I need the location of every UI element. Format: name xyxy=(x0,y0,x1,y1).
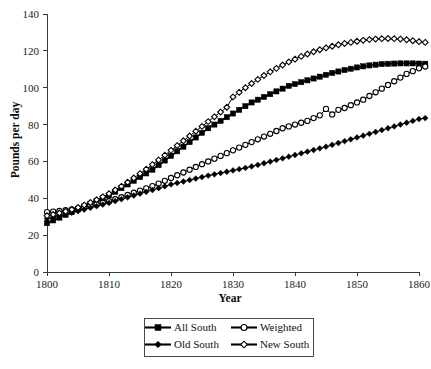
data-point xyxy=(261,134,266,139)
data-point xyxy=(404,120,410,126)
data-point xyxy=(336,107,341,112)
x-tick-label: 1850 xyxy=(346,278,369,290)
data-point xyxy=(348,103,353,108)
data-point xyxy=(206,159,211,164)
data-point xyxy=(336,69,341,74)
series-group xyxy=(44,36,428,226)
data-point xyxy=(354,100,359,105)
data-point xyxy=(367,93,372,98)
data-point xyxy=(311,76,316,81)
data-point xyxy=(404,37,410,43)
legend-label: Old South xyxy=(174,338,219,350)
data-point xyxy=(385,61,390,66)
x-tick-label: 1800 xyxy=(36,278,59,290)
data-point xyxy=(237,145,242,150)
data-point xyxy=(323,72,328,77)
data-point xyxy=(348,66,353,71)
data-point xyxy=(311,147,317,153)
legend-marker-open-circle xyxy=(241,325,247,331)
data-point xyxy=(230,168,236,174)
data-point xyxy=(336,140,342,146)
data-point xyxy=(255,162,261,168)
data-point xyxy=(367,131,373,137)
data-point xyxy=(181,144,186,149)
data-point xyxy=(323,144,329,150)
legend-label: All South xyxy=(174,321,217,333)
data-point xyxy=(317,47,323,53)
data-point xyxy=(255,77,261,83)
data-point xyxy=(299,80,304,85)
data-point xyxy=(423,64,428,69)
data-point xyxy=(336,42,342,48)
data-point xyxy=(398,61,403,66)
data-point xyxy=(255,137,260,142)
data-point xyxy=(385,36,391,42)
data-point xyxy=(360,37,366,43)
data-point xyxy=(205,173,211,179)
y-tick-label: 40 xyxy=(28,192,40,204)
data-point xyxy=(237,107,242,112)
data-point xyxy=(398,75,403,80)
data-point xyxy=(199,162,204,167)
data-point xyxy=(280,155,286,161)
data-point xyxy=(175,173,180,178)
data-point xyxy=(305,149,311,155)
data-point xyxy=(373,129,379,135)
data-point xyxy=(168,153,173,158)
legend-marker-filled-square xyxy=(155,325,161,331)
data-point xyxy=(292,56,298,62)
data-point xyxy=(218,170,224,176)
data-point xyxy=(385,82,390,87)
data-point xyxy=(249,139,254,144)
data-point xyxy=(286,124,291,129)
y-tick-label: 60 xyxy=(28,155,40,167)
data-point xyxy=(361,64,366,69)
data-point xyxy=(329,142,335,148)
legend-label: Weighted xyxy=(260,321,302,333)
data-point xyxy=(367,63,372,68)
data-point xyxy=(243,104,248,109)
data-point xyxy=(292,152,298,158)
data-point xyxy=(299,120,304,125)
data-point xyxy=(181,179,187,185)
data-point xyxy=(218,118,223,123)
data-point xyxy=(224,169,230,175)
data-point xyxy=(323,45,329,51)
data-point xyxy=(360,133,366,139)
data-point xyxy=(348,136,354,142)
data-point xyxy=(286,83,291,88)
data-point xyxy=(379,62,384,67)
y-tick-label: 120 xyxy=(23,45,40,57)
legend-label: New South xyxy=(260,338,310,350)
y-tick-label: 140 xyxy=(23,8,40,20)
data-point xyxy=(274,128,279,133)
data-point xyxy=(249,81,255,87)
data-point xyxy=(181,170,186,175)
data-point xyxy=(280,86,285,91)
data-point xyxy=(274,157,280,163)
data-point xyxy=(323,106,328,111)
data-point xyxy=(156,185,162,191)
x-tick-label: 1820 xyxy=(160,278,183,290)
data-point xyxy=(168,182,174,188)
data-point xyxy=(342,41,348,47)
x-tick-label: 1830 xyxy=(222,278,245,290)
data-point xyxy=(391,124,397,130)
y-tick-label: 0 xyxy=(34,266,40,278)
data-point xyxy=(298,150,304,156)
data-point xyxy=(348,39,354,45)
data-point xyxy=(398,36,404,42)
data-point xyxy=(274,89,279,94)
data-point xyxy=(410,118,416,124)
data-point xyxy=(317,145,323,151)
data-point xyxy=(193,164,198,169)
data-point xyxy=(416,39,422,45)
chart-figure: 020406080100120140 180018101820183018401… xyxy=(0,0,431,369)
data-point xyxy=(212,156,217,161)
data-point xyxy=(243,165,249,171)
series-weighted xyxy=(44,64,427,215)
x-tick-label: 1810 xyxy=(98,278,121,290)
data-point xyxy=(422,115,428,121)
data-point xyxy=(261,160,267,166)
series-old-south xyxy=(44,115,428,221)
